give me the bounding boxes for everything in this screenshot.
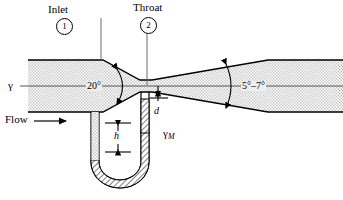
venturi-figure: Inlet 1 Throat 2 Flow 20° 5°–7° γ h d γM bbox=[0, 0, 343, 200]
inlet-station-marker: 1 bbox=[56, 18, 73, 35]
throat-station-marker: 2 bbox=[140, 17, 157, 34]
converging-angle-label: 20° bbox=[86, 81, 102, 91]
inlet-label: Inlet bbox=[48, 4, 68, 15]
manometer-fluid-subscript: M bbox=[168, 132, 175, 141]
throat-label: Throat bbox=[133, 2, 162, 13]
diverging-angle-label: 5°–7° bbox=[241, 81, 266, 91]
manometer-fluid-label: γM bbox=[163, 128, 174, 141]
d-dimension-label: d bbox=[154, 106, 159, 116]
h-dimension-label: h bbox=[114, 131, 119, 141]
venturi-diagram-svg bbox=[0, 0, 343, 200]
mercury-riser-right bbox=[141, 99, 149, 133]
fluid-column-left bbox=[92, 112, 99, 160]
throat-tap-neck bbox=[141, 92, 149, 99]
flow-label: Flow bbox=[5, 114, 28, 125]
fluid-weight-label: γ bbox=[8, 80, 13, 91]
